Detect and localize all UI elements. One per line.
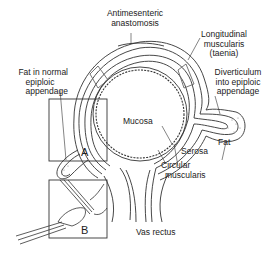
label-mucosa: Mucosa (123, 117, 153, 127)
inset-b-label: B (81, 224, 88, 236)
label-line: anastomosis (98, 19, 172, 29)
label-vas-rectus: Vas rectus (136, 228, 176, 238)
label-line: appendage (12, 87, 68, 97)
inset-b-box (49, 180, 107, 238)
label-line: (taenia) (192, 49, 256, 59)
label-fat: Fat (218, 138, 230, 148)
label-circular-muscularis: Circular muscularis (161, 161, 206, 180)
label-longitudinal-muscularis: Longitudinal muscularis (taenia) (192, 30, 256, 59)
label-line: muscularis (161, 171, 206, 181)
label-diverticulum: Diverticulum into epiploic appendage (206, 68, 270, 97)
label-serosa: Serosa (181, 147, 208, 157)
label-fat-normal-epiploic: Fat in normal epiploic appendage (12, 68, 68, 97)
label-line: appendage (206, 87, 270, 97)
label-antimesenteric-anastomosis: Antimesenteric anastomosis (98, 9, 172, 28)
lumen-mucosa (96, 70, 184, 158)
diagram-canvas: Antimesenteric anastomosis Longitudinal … (0, 0, 272, 257)
inset-a-label: A (81, 146, 88, 158)
